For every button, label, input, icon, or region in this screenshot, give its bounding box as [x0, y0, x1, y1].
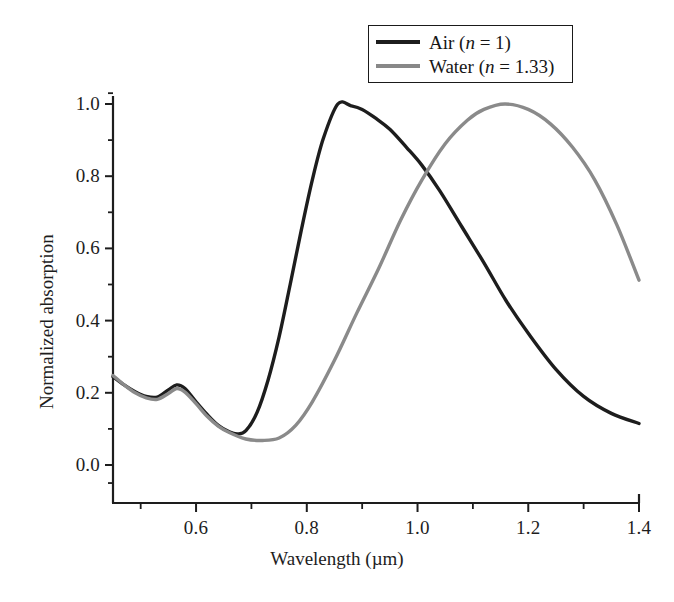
data-series-group [113, 102, 639, 441]
y-tick-label: 0.0 [48, 454, 100, 476]
legend-swatch-water-icon [376, 64, 420, 68]
y-tick-label: 1.0 [48, 93, 100, 115]
figure-container: 0.00.20.40.60.81.0 0.60.81.01.21.4 Norma… [0, 0, 674, 602]
series-line-air [113, 102, 639, 434]
x-tick-label: 0.6 [184, 517, 208, 539]
legend-item-water: Water (n = 1.33) [376, 54, 564, 78]
y-axis-title: Normalized absorption [36, 234, 58, 409]
legend-label-water: Water (n = 1.33) [429, 57, 554, 76]
x-axis-ticks [141, 503, 639, 512]
x-tick-label: 0.8 [295, 517, 319, 539]
legend-label-air: Air (n = 1) [429, 33, 511, 52]
y-axis-ticks [105, 93, 113, 483]
axis-lines [112, 96, 640, 503]
legend-box: Air (n = 1) Water (n = 1.33) [368, 25, 573, 83]
x-tick-label: 1.4 [627, 517, 651, 539]
series-line-water [113, 104, 639, 440]
plot-canvas [0, 0, 674, 602]
x-tick-label: 1.2 [516, 517, 540, 539]
legend-item-air: Air (n = 1) [376, 30, 564, 54]
x-tick-label: 1.0 [405, 517, 429, 539]
y-tick-label: 0.8 [48, 165, 100, 187]
x-axis-title: Wavelength (µm) [0, 548, 674, 570]
legend-swatch-air-icon [376, 40, 420, 44]
